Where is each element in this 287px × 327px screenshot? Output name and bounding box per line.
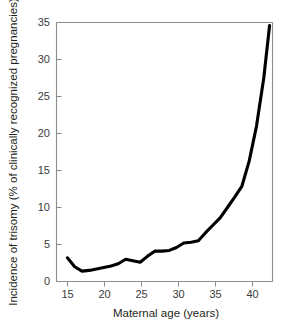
y-tick-label-10: 10 (38, 201, 50, 213)
y-tick-label-5: 5 (44, 238, 50, 250)
y-tick-label-30: 30 (38, 53, 50, 65)
y-tick-label-0: 0 (44, 275, 50, 287)
chart-container: 35 30 25 20 15 10 5 0 15 20 25 30 35 40 (0, 0, 287, 327)
trisomy-incidence-line-chart: 35 30 25 20 15 10 5 0 15 20 25 30 35 40 (0, 0, 287, 327)
y-tick-label-20: 20 (38, 127, 50, 139)
y-tick-label-25: 25 (38, 90, 50, 102)
x-tick-label-20: 20 (98, 288, 110, 300)
x-tick-label-40: 40 (246, 288, 258, 300)
x-axis-title: Maternal age (years) (113, 307, 219, 319)
x-tick-label-15: 15 (61, 288, 73, 300)
x-tick-label-25: 25 (135, 288, 147, 300)
x-tick-label-35: 35 (209, 288, 221, 300)
y-tick-label-35: 35 (38, 16, 50, 28)
y-axis-title: Incidence of trisomy (% of clinically re… (7, 0, 19, 306)
x-tick-label-30: 30 (172, 288, 184, 300)
y-tick-label-15: 15 (38, 164, 50, 176)
